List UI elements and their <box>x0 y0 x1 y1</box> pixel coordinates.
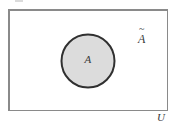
tilde-accent-icon: ~ <box>138 24 145 34</box>
complement-of-a-label: ~ A <box>138 25 145 45</box>
venn-diagram-canvas <box>0 0 176 131</box>
scan-artifact-mark <box>15 0 23 2</box>
venn-diagram-figure: A ~ A U <box>0 0 176 131</box>
set-a-label: A <box>0 54 176 65</box>
universal-set-label: U <box>157 112 165 123</box>
